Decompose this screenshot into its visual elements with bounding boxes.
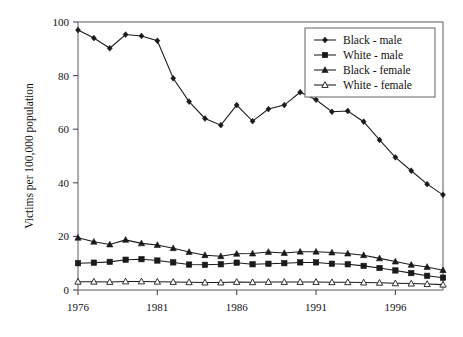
series-line xyxy=(78,238,443,270)
marker-filled-square xyxy=(361,263,366,268)
marker-filled-square xyxy=(440,275,445,280)
marker-filled-diamond xyxy=(314,97,319,103)
marker-filled-square xyxy=(409,270,414,275)
marker-filled-square xyxy=(329,261,334,266)
marker-filled-square xyxy=(377,265,382,270)
series-black-female xyxy=(75,234,446,272)
marker-filled-square xyxy=(107,259,112,264)
marker-filled-square xyxy=(155,258,160,263)
x-axis: 19761981198619911996 xyxy=(67,290,407,313)
series-line xyxy=(78,259,443,277)
legend-label: White - female xyxy=(343,79,412,91)
marker-filled-square xyxy=(282,261,287,266)
marker-filled-square xyxy=(139,256,144,261)
marker-filled-triangle xyxy=(122,237,128,243)
legend-label: Black - male xyxy=(343,34,402,46)
legend-label: White - male xyxy=(343,49,403,61)
marker-filled-square xyxy=(322,52,327,57)
legend: Black - maleWhite - maleBlack - femaleWh… xyxy=(305,28,435,97)
x-tick-label: 1976 xyxy=(67,301,90,313)
marker-filled-square xyxy=(424,273,429,278)
chart-canvas: 02040608010019761981198619911996Victims … xyxy=(0,0,463,337)
x-tick-label: 1996 xyxy=(384,301,407,313)
marker-filled-square xyxy=(186,262,191,267)
y-tick-label: 40 xyxy=(58,177,70,189)
marker-filled-square xyxy=(266,261,271,266)
marker-filled-diamond xyxy=(266,106,271,112)
y-tick-label: 100 xyxy=(53,16,70,28)
y-tick-label: 80 xyxy=(58,70,70,82)
marker-filled-square xyxy=(218,262,223,267)
y-tick-label: 20 xyxy=(58,230,70,242)
y-tick-label: 0 xyxy=(64,284,70,296)
marker-filled-diamond xyxy=(139,33,144,39)
marker-filled-square xyxy=(393,268,398,273)
marker-filled-square xyxy=(91,260,96,265)
y-tick-label: 60 xyxy=(58,123,70,135)
legend-label: Black - female xyxy=(343,64,411,76)
marker-filled-square xyxy=(250,262,255,267)
marker-filled-square xyxy=(297,260,302,265)
marker-filled-diamond xyxy=(91,35,96,41)
marker-filled-square xyxy=(313,260,318,265)
marker-filled-square xyxy=(202,262,207,267)
marker-filled-diamond xyxy=(329,109,334,115)
series-white-female xyxy=(75,278,446,287)
x-tick-label: 1981 xyxy=(146,301,168,313)
marker-filled-diamond xyxy=(76,27,81,33)
marker-filled-square xyxy=(345,262,350,267)
x-tick-label: 1986 xyxy=(226,301,249,313)
marker-filled-square xyxy=(75,261,80,266)
marker-filled-square xyxy=(123,257,128,262)
marker-filled-triangle xyxy=(265,249,271,255)
marker-filled-diamond xyxy=(155,38,160,44)
y-axis-title: Victims per 100,000 population xyxy=(23,83,36,229)
marker-filled-triangle xyxy=(75,234,81,240)
line-chart: 02040608010019761981198619911996Victims … xyxy=(0,0,463,337)
marker-filled-diamond xyxy=(441,192,446,198)
x-tick-label: 1991 xyxy=(305,301,327,313)
marker-filled-diamond xyxy=(345,108,350,114)
marker-filled-square xyxy=(234,260,239,265)
series-line xyxy=(78,281,443,284)
marker-filled-square xyxy=(171,260,176,265)
y-axis: 020406080100 xyxy=(53,16,79,296)
